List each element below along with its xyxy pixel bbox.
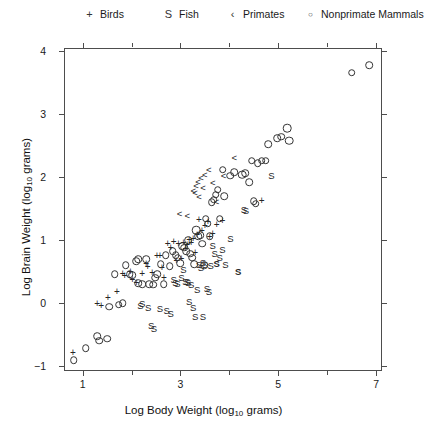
x-tick-minor-top [327, 43, 328, 47]
y-tick-major-right [382, 366, 387, 367]
y-axis-title-suffix: grams) [20, 138, 32, 177]
legend-item-fish: SFish [163, 8, 199, 20]
legend-symbol-plus-icon: + [84, 9, 95, 20]
legend-symbol-letter-S-icon: S [163, 9, 174, 20]
y-tick-major [59, 51, 64, 52]
legend-label: Primates [243, 8, 284, 20]
y-tick-label: −1 [34, 360, 46, 372]
x-tick-label: 5 [275, 378, 281, 390]
legend-item-nonprimate-mammals: ○Nonprimate Mammals [305, 8, 424, 20]
x-tick-minor [229, 371, 230, 375]
legend-symbol-open-circle-icon: ○ [305, 9, 316, 20]
y-tick-major-right [382, 303, 387, 304]
legend-item-primates: ‹Primates [227, 8, 284, 20]
y-tick-label: 3 [40, 108, 46, 120]
y-tick-major-right [382, 240, 387, 241]
y-tick-label: 4 [40, 45, 46, 57]
x-tick-minor-top [229, 43, 230, 47]
x-tick-major-top [83, 43, 84, 48]
y-tick-major-right [382, 114, 387, 115]
y-tick-major [59, 303, 64, 304]
plot-frame [64, 48, 382, 371]
x-tick-major [376, 371, 377, 376]
x-axis-title: Log Body Weight (log10 grams) [0, 404, 407, 418]
y-tick-major [59, 240, 64, 241]
x-tick-label: 1 [80, 378, 86, 390]
x-axis-title-prefix: Log Body Weight (log [125, 404, 235, 416]
x-tick-major-top [278, 43, 279, 48]
legend-label: Nonprimate Mammals [321, 8, 424, 20]
legend-label: Birds [100, 8, 124, 20]
x-tick-minor-top [132, 43, 133, 47]
y-tick-major [59, 366, 64, 367]
chart-legend: +BirdsSFish‹Primates○Nonprimate Mammals [0, 8, 407, 30]
x-axis-title-subscript: 10 [234, 409, 243, 418]
y-axis-title-subscript: 10 [25, 177, 34, 186]
x-tick-major [180, 371, 181, 376]
x-tick-minor [132, 371, 133, 375]
y-axis-title: Log Brain Weight (log10 grams) [20, 77, 34, 357]
x-tick-major [278, 371, 279, 376]
x-tick-major [83, 371, 84, 376]
y-tick-major-right [382, 177, 387, 178]
x-tick-major-top [180, 43, 181, 48]
x-tick-minor [327, 371, 328, 375]
y-tick-label: 1 [40, 234, 46, 246]
y-tick-major [59, 114, 64, 115]
x-tick-major-top [376, 43, 377, 48]
legend-item-birds: +Birds [84, 8, 124, 20]
y-axis-title-prefix: Log Brain Weight (log [20, 186, 32, 296]
legend-symbol-less-than-icon: ‹ [227, 9, 238, 20]
x-tick-label: 7 [373, 378, 379, 390]
y-tick-label: 0 [40, 297, 46, 309]
y-tick-label: 2 [40, 171, 46, 183]
y-tick-major-right [382, 51, 387, 52]
legend-label: Fish [179, 8, 199, 20]
x-tick-label: 3 [178, 378, 184, 390]
y-tick-major [59, 177, 64, 178]
x-axis-title-suffix: grams) [243, 404, 282, 416]
